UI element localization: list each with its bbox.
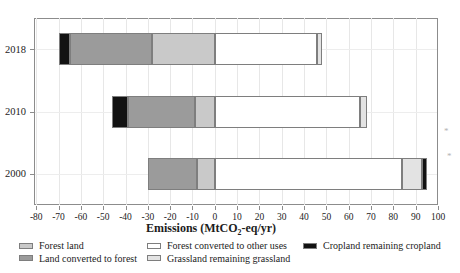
x-tick bbox=[416, 206, 417, 210]
legend-label-forest_converted_to_other_uses: Forest converted to other uses bbox=[167, 240, 287, 252]
legend-item-cropland_remaining_cropland: Cropland remaining cropland bbox=[303, 240, 453, 252]
legend-item-land_converted_to_forest: Land converted to forest bbox=[19, 253, 169, 265]
y-axis-label: 2000 bbox=[0, 168, 26, 179]
y-axis-label: 2010 bbox=[0, 106, 26, 117]
legend-label-land_converted_to_forest: Land converted to forest bbox=[39, 253, 137, 265]
legend-label-grassland_remaining_grassland: Grassland remaining grassland bbox=[167, 253, 290, 265]
legend-swatch-cropland_remaining_cropland bbox=[303, 243, 317, 249]
stray-mark: * bbox=[447, 152, 452, 161]
x-tick bbox=[237, 206, 238, 210]
x-tick bbox=[326, 206, 327, 210]
x-tick bbox=[371, 206, 372, 210]
legend-swatch-land_converted_to_forest bbox=[19, 255, 33, 261]
x-tick bbox=[103, 206, 104, 210]
x-tick bbox=[304, 206, 305, 210]
x-tick bbox=[192, 206, 193, 210]
x-tick-label: 100 bbox=[421, 212, 455, 222]
x-tick bbox=[36, 206, 37, 210]
x-tick bbox=[170, 206, 171, 210]
x-tick-label: 80 bbox=[376, 212, 410, 222]
x-tick bbox=[215, 206, 216, 210]
x-tick bbox=[259, 206, 260, 210]
x-tick bbox=[349, 206, 350, 210]
y-axis-label: 2018 bbox=[0, 44, 26, 55]
x-tick bbox=[438, 206, 439, 210]
x-axis-title-suffix: -eq/yr) bbox=[241, 221, 276, 235]
x-tick bbox=[282, 206, 283, 210]
x-tick bbox=[148, 206, 149, 210]
emissions-bar-chart: -80-70-60-50-40-30-20-100102030405060708… bbox=[0, 0, 460, 273]
x-axis-title-text: Emissions (MtCO bbox=[146, 221, 238, 235]
x-axis-title: Emissions (MtCO2-eq/yr) bbox=[86, 221, 336, 240]
x-tick-label: -80 bbox=[19, 212, 53, 222]
x-tick bbox=[393, 206, 394, 210]
x-tick bbox=[126, 206, 127, 210]
legend-swatch-forest_converted_to_other_uses bbox=[147, 243, 161, 249]
x-tick bbox=[81, 206, 82, 210]
x-tick-label: 60 bbox=[332, 212, 366, 222]
x-tick-label: 70 bbox=[354, 212, 388, 222]
legend-label-forest_land: Forest land bbox=[39, 240, 84, 252]
x-tick-label: -70 bbox=[42, 212, 76, 222]
legend-swatch-forest_land bbox=[19, 243, 33, 249]
x-tick bbox=[59, 206, 60, 210]
x-tick-label: 90 bbox=[399, 212, 433, 222]
legend-item-forest_land: Forest land bbox=[19, 240, 169, 252]
legend-item-grassland_remaining_grassland: Grassland remaining grassland bbox=[147, 253, 297, 265]
legend-item-forest_converted_to_other_uses: Forest converted to other uses bbox=[147, 240, 297, 252]
plot-area bbox=[34, 18, 438, 205]
legend-swatch-grassland_remaining_grassland bbox=[147, 255, 161, 261]
stray-mark: * bbox=[444, 127, 449, 136]
legend-label-cropland_remaining_cropland: Cropland remaining cropland bbox=[323, 240, 441, 252]
